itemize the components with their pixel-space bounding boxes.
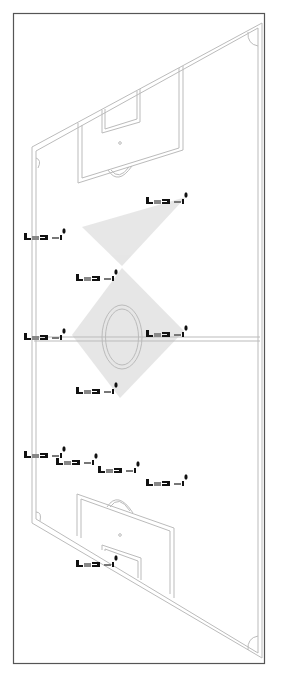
player-figure xyxy=(98,461,140,473)
player-figure xyxy=(76,269,118,281)
bottom-penalty-box-outer xyxy=(77,494,174,598)
top-penalty-box-inner xyxy=(82,68,179,178)
bottom-penalty-spot xyxy=(119,534,122,537)
pitch-canvas xyxy=(0,0,286,674)
soccer-formation-diagram: Perspective view of a soccer pitch with … xyxy=(0,0,286,674)
player-figure xyxy=(24,446,66,458)
shaded-areas xyxy=(72,197,186,398)
player-figure xyxy=(24,328,66,340)
bottom-penalty-box-inner xyxy=(81,499,170,594)
upper-triangle-shade xyxy=(82,197,186,266)
corner-arc-top-left xyxy=(36,158,40,168)
player-figure xyxy=(56,453,98,465)
player-figure xyxy=(146,192,188,204)
player-figure xyxy=(146,474,188,486)
pitch-lines xyxy=(32,23,262,658)
top-penalty-spot xyxy=(119,142,122,145)
player-figure xyxy=(24,228,66,240)
corner-arc-top-right xyxy=(248,32,258,46)
